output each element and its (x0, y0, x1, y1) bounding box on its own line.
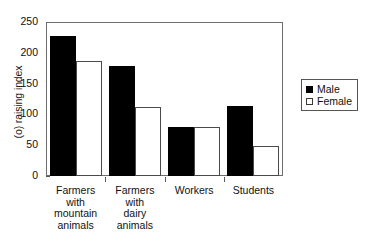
y-tick-label: 50 (26, 138, 38, 150)
chart-legend: Male Female (301, 79, 358, 111)
y-tick-label: 250 (20, 15, 38, 27)
bar-chart: (o) raising index 250200150100500 Farmer… (0, 0, 368, 244)
legend-item-male: Male (306, 83, 352, 95)
y-tick-label: 200 (20, 46, 38, 58)
y-tick-label: 150 (20, 77, 38, 89)
legend-item-female: Female (306, 95, 352, 107)
y-tick-label: 0 (32, 169, 38, 181)
x-tick-mark-1 (165, 177, 166, 182)
bar-series-layer (46, 22, 283, 176)
x-label-0: Farmerswithmountainanimals (46, 185, 105, 231)
bar-female-1 (135, 107, 161, 176)
x-tick-mark-0 (105, 177, 106, 182)
x-label-2: Workers (165, 185, 224, 197)
x-label-3: Students (224, 185, 283, 197)
bar-female-2 (194, 127, 220, 176)
bar-male-2 (168, 127, 194, 176)
x-label-1: Farmerswithdairyanimals (105, 185, 164, 231)
bar-male-0 (50, 36, 76, 176)
bar-male-1 (109, 66, 135, 176)
bar-female-3 (253, 146, 279, 176)
open-square-icon (306, 98, 313, 105)
bar-male-3 (227, 106, 253, 176)
bar-female-0 (76, 61, 102, 176)
legend-label-male: Male (317, 83, 340, 95)
filled-square-icon (306, 86, 313, 93)
legend-label-female: Female (317, 95, 352, 107)
y-tick-mark (46, 176, 50, 177)
y-tick-label: 100 (20, 107, 38, 119)
x-tick-mark-2 (224, 177, 225, 182)
